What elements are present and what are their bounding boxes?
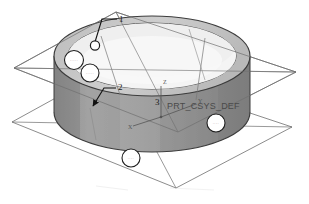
tag-a[interactable]: ····· [65, 51, 84, 70]
scan-artifacts [96, 186, 214, 190]
callout-3-label: 3 [155, 97, 160, 107]
tag-b[interactable]: ····· [81, 64, 99, 82]
tag-d-text: ···· [128, 157, 135, 161]
cad-viewport: Z X Y PRT_CSYS_DEF 1 2 3 ····· ····· [0, 0, 309, 204]
csys-axis-label-x: X [128, 124, 133, 130]
tag-a-text: ····· [70, 59, 78, 63]
csys-label: PRT_CSYS_DEF [167, 101, 240, 111]
callout-1-marker[interactable] [90, 41, 99, 50]
callout-1-label: 1 [119, 14, 124, 24]
tag-b-text: ····· [86, 72, 94, 76]
tag-c-text: ···· [213, 122, 220, 126]
callout-3[interactable]: 3 [155, 97, 160, 107]
tag-c[interactable]: ···· [207, 114, 225, 132]
callout-2-label: 2 [118, 82, 123, 92]
csys-axis-label-z: Z [163, 79, 167, 85]
tag-d[interactable]: ···· [122, 149, 140, 167]
cad-scene: Z X Y PRT_CSYS_DEF 1 2 3 ····· ····· [0, 0, 309, 204]
